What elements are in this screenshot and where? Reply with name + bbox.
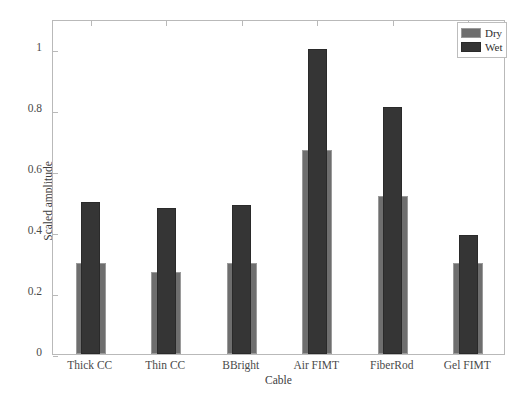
chart-legend: Dry Wet [457,22,507,58]
x-tick-mark [317,21,318,26]
x-tick-label: Air FIMT [293,360,339,372]
y-tick-mark [53,112,58,113]
legend-item-dry: Dry [461,26,502,40]
bar-wet [157,208,176,354]
legend-label-wet: Wet [485,42,502,53]
legend-swatch-wet-icon [461,42,481,52]
bar-wet [383,107,402,354]
x-tick-label: BBright [222,360,259,372]
y-tick-mark [53,173,58,174]
y-tick: 1 [0,50,52,51]
y-tick-label: 0.2 [28,286,42,298]
y-tick: 0.2 [0,294,52,295]
y-tick-label: 0.8 [28,103,42,115]
bar-wet [459,235,478,354]
y-tick-label: 0 [36,347,42,359]
y-tick-mark [53,356,58,357]
x-axis-title: Cable [52,374,505,386]
y-tick: 0 [0,355,52,356]
legend-swatch-dry-icon [461,28,481,38]
y-tick-mark [53,295,58,296]
x-tick-label: Gel FIMT [444,360,491,372]
x-tick-mark [393,21,394,26]
x-tick-label: FiberRod [370,360,413,372]
y-tick-label: 1 [36,42,42,54]
bar-wet [232,205,251,354]
y-tick-mark [53,234,58,235]
y-tick-label: 0.4 [28,225,42,237]
y-tick-label: 0.6 [28,164,42,176]
y-tick: 0.4 [0,233,52,234]
y-tick: 0.8 [0,111,52,112]
bar-chart-figure: Scaled amplitude 00.20.40.60.81 Thick CC… [0,0,529,401]
bar-wet [81,202,100,354]
y-tick: 0.6 [0,172,52,173]
plot-area [52,20,505,355]
x-tick-mark [91,21,92,26]
bar-wet [308,49,327,354]
x-tick-mark [242,21,243,26]
x-tick-mark [166,21,167,26]
x-tick-label: Thin CC [145,360,185,372]
legend-label-dry: Dry [485,28,502,39]
legend-item-wet: Wet [461,40,502,54]
x-tick-label: Thick CC [67,360,112,372]
y-tick-mark [53,51,58,52]
